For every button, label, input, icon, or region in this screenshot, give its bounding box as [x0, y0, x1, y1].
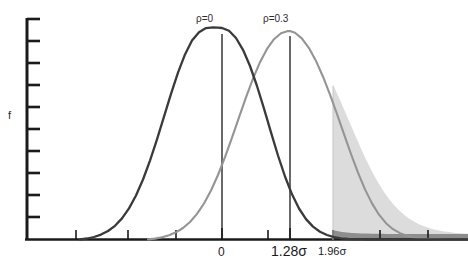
x-tick-label-1-96-sigma: 1.96σ	[318, 246, 346, 257]
curve-label-rho-0: ρ=0	[196, 14, 213, 24]
curve-label-rho-0-3: ρ=0.3	[263, 14, 288, 24]
y-axis-ticks	[27, 19, 40, 217]
y-axis-label: f	[8, 110, 11, 121]
x-tick-label-zero: 0	[218, 246, 225, 258]
curve-rho-0-3	[148, 31, 468, 240]
statistical-power-figure: f ρ=0 ρ=0.3 0 1.28σ 1.96σ	[0, 0, 468, 264]
curve-rho-0	[80, 27, 468, 239]
x-tick-label-1-28-sigma: 1.28σ	[271, 244, 307, 258]
distribution-plot	[0, 0, 468, 264]
